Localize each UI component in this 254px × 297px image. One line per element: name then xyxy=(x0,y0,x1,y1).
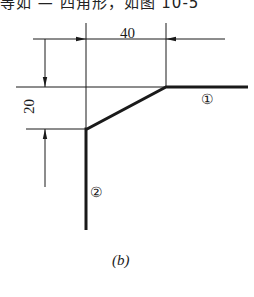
dimension-label-vertical: 20 xyxy=(21,99,38,114)
part-outline xyxy=(86,87,248,230)
part-label-1: ① xyxy=(201,91,214,107)
dimension-label-horizontal: 40 xyxy=(120,25,135,42)
part-label-2: ② xyxy=(90,184,103,200)
figure-caption: (b) xyxy=(112,252,130,269)
